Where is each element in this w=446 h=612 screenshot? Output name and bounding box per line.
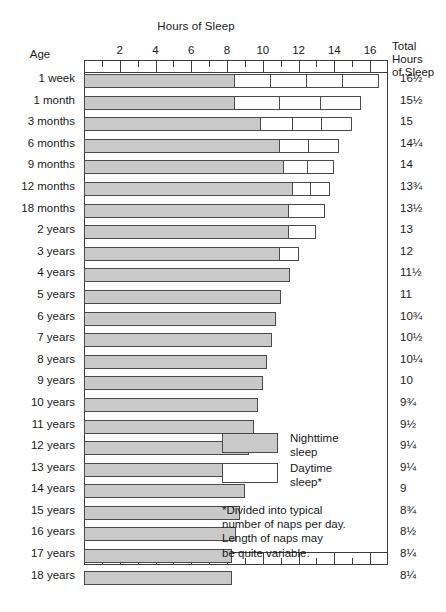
bar-segment-nap-3 bbox=[320, 96, 362, 110]
row-label-age: 14 years bbox=[31, 482, 75, 494]
sleep-bar bbox=[84, 204, 325, 218]
row-label-age: 9 months bbox=[28, 158, 75, 170]
bar-segment-nap-3 bbox=[306, 74, 343, 88]
row-total-hours: 11½ bbox=[400, 266, 422, 278]
legend-nighttime-line1: Nighttime bbox=[290, 432, 339, 446]
row-label-age: 13 years bbox=[31, 461, 75, 473]
bar-segment-nighttime bbox=[84, 139, 280, 153]
row-total-hours: 9¼ bbox=[400, 461, 416, 473]
legend-item-nighttime: Nighttime sleep bbox=[222, 433, 390, 463]
sleep-bar bbox=[84, 333, 272, 347]
bar-segment-nighttime bbox=[84, 96, 235, 110]
axis-tick-1 bbox=[102, 61, 103, 67]
footnote-line3: Length of naps may bbox=[222, 531, 392, 545]
sleep-bar bbox=[84, 139, 339, 153]
bar-segment-nap-1 bbox=[234, 96, 280, 110]
legend-label-daytime: Daytime sleep* bbox=[290, 462, 332, 489]
bar-segment-nighttime bbox=[84, 117, 261, 131]
legend-daytime-line2: sleep* bbox=[290, 476, 332, 490]
sleep-bar bbox=[84, 571, 232, 585]
bar-segment-nighttime bbox=[84, 204, 289, 218]
row-label-age: 6 months bbox=[28, 137, 75, 149]
row-total-hours: 8¼ bbox=[400, 547, 416, 559]
legend-nighttime-line2: sleep bbox=[290, 446, 339, 460]
bar-row: 18 years8¼ bbox=[84, 568, 388, 590]
sleep-bar bbox=[84, 549, 232, 563]
legend-daytime-line1: Daytime bbox=[290, 462, 332, 476]
row-label-age: 7 years bbox=[37, 331, 75, 343]
row-total-hours: 15 bbox=[400, 115, 413, 127]
row-total-hours: 14 bbox=[400, 158, 413, 170]
chart-title: Hours of Sleep bbox=[0, 20, 392, 32]
row-total-hours: 8¾ bbox=[400, 504, 416, 516]
row-label-age: 17 years bbox=[31, 547, 75, 559]
bar-segment-nap-2 bbox=[310, 182, 330, 196]
bar-segment-nighttime bbox=[84, 74, 235, 88]
axis-tick-label-4: 4 bbox=[143, 44, 169, 56]
row-label-age: 2 years bbox=[37, 223, 75, 235]
sleep-bar bbox=[84, 484, 245, 498]
bar-segment-nap-1 bbox=[288, 204, 325, 218]
row-total-hours: 10½ bbox=[400, 331, 422, 343]
sleep-bar bbox=[84, 355, 267, 369]
bar-segment-nighttime bbox=[84, 420, 254, 434]
axis-tick-label-10: 10 bbox=[250, 44, 276, 56]
axis-tick-label-12: 12 bbox=[286, 44, 312, 56]
row-label-age: 15 years bbox=[31, 504, 75, 516]
bar-segment-nighttime bbox=[84, 290, 281, 304]
row-total-hours: 9¼ bbox=[400, 439, 416, 451]
bar-segment-nap-1 bbox=[279, 247, 299, 261]
row-total-hours: 13 bbox=[400, 223, 413, 235]
bar-segment-nap-3 bbox=[321, 117, 352, 131]
bar-segment-nap-1 bbox=[288, 225, 316, 239]
axis-tick-label-14: 14 bbox=[321, 44, 347, 56]
bar-segment-nighttime bbox=[84, 506, 240, 520]
row-total-hours: 8½ bbox=[400, 525, 416, 537]
axis-tick-label-16: 16 bbox=[357, 44, 383, 56]
row-label-age: 16 years bbox=[31, 525, 75, 537]
sleep-bar bbox=[84, 527, 236, 541]
bar-row: 1 week16½ bbox=[84, 71, 388, 93]
row-total-hours: 12 bbox=[400, 245, 413, 257]
row-label-age: 12 years bbox=[31, 439, 75, 451]
row-total-hours: 13¾ bbox=[400, 180, 422, 192]
row-total-hours: 15½ bbox=[400, 94, 422, 106]
bar-segment-nap-1 bbox=[283, 160, 308, 174]
row-total-hours: 10 bbox=[400, 374, 413, 386]
bar-row: 7 years10½ bbox=[84, 330, 388, 352]
bar-row: 3 months15 bbox=[84, 114, 388, 136]
bar-segment-nighttime bbox=[84, 182, 293, 196]
row-label-age: 6 years bbox=[37, 310, 75, 322]
bar-segment-nighttime bbox=[84, 225, 289, 239]
sleep-bar bbox=[84, 160, 334, 174]
row-label-age: 9 years bbox=[37, 374, 75, 386]
bar-segment-nighttime bbox=[84, 398, 258, 412]
axis-tick-label-6: 6 bbox=[178, 44, 204, 56]
row-label-age: 8 years bbox=[37, 353, 75, 365]
bar-segment-nighttime bbox=[84, 355, 267, 369]
sleep-bar bbox=[84, 268, 290, 282]
bar-segment-nap-2 bbox=[279, 96, 321, 110]
bar-row: 9 months14 bbox=[84, 157, 388, 179]
row-label-age: 3 years bbox=[37, 245, 75, 257]
row-total-hours: 14¼ bbox=[400, 137, 422, 149]
sleep-bar bbox=[84, 376, 263, 390]
bar-row: 4 years11½ bbox=[84, 265, 388, 287]
sleep-bar bbox=[84, 506, 240, 520]
footnote-line4: be quite variable. bbox=[222, 546, 392, 560]
footnote: *Divided into typical number of naps per… bbox=[222, 503, 392, 560]
bar-row: 3 years12 bbox=[84, 244, 388, 266]
row-label-age: 18 months bbox=[21, 202, 75, 214]
bar-row: 10 years9¾ bbox=[84, 395, 388, 417]
bar-segment-nap-2 bbox=[308, 139, 339, 153]
sleep-bar bbox=[84, 74, 379, 88]
sleep-bar bbox=[84, 420, 254, 434]
bar-row: 1 month15½ bbox=[84, 93, 388, 115]
row-label-age: 1 month bbox=[33, 94, 75, 106]
bar-row: 6 years10¾ bbox=[84, 309, 388, 331]
footnote-line2: number of naps per day. bbox=[222, 517, 392, 531]
bar-segment-nighttime bbox=[84, 160, 284, 174]
row-label-age: 4 years bbox=[37, 266, 75, 278]
row-total-hours: 8¼ bbox=[400, 569, 416, 581]
axis-tick-7 bbox=[209, 61, 210, 67]
